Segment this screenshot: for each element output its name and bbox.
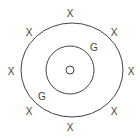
outer-markers: X X X X X X X X [8,8,135,133]
outer-marker-left: X [8,66,15,77]
concentric-circle-diagram: X X X X X X X X G G [0,0,140,139]
outer-marker-top: X [67,8,74,19]
inner-ring [46,46,94,94]
outer-marker-top-left: X [26,27,33,38]
outer-marker-right: X [128,66,135,77]
outer-marker-bottom: X [67,122,74,133]
inner-marker-lower-left: G [38,91,46,102]
inner-marker-upper-right: G [90,42,98,53]
center-circle-icon [66,66,74,74]
outer-marker-bottom-left: X [26,106,33,117]
outer-marker-top-right: X [111,27,118,38]
inner-markers: G G [38,42,98,102]
outer-ring [21,23,123,117]
outer-marker-bottom-right: X [111,106,118,117]
